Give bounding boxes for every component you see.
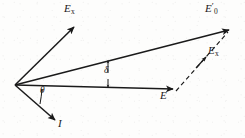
label-e0-prime-subscript: 0: [214, 7, 218, 16]
label-e0-prime: E′0: [205, 2, 218, 15]
label-ex-right-symbol: E: [208, 44, 215, 56]
label-ex-top: Ex: [64, 3, 75, 16]
vector-i-line: [15, 85, 55, 120]
vector-ex-top-line: [15, 27, 74, 85]
vector-e0-prime-line: [15, 30, 229, 85]
label-e-horizontal-symbol: E: [160, 89, 167, 101]
figure-root: Ex E′0 Ex E I δ θ: [0, 0, 245, 138]
label-ex-right: Ex: [208, 45, 219, 58]
label-ex-top-symbol: E: [64, 2, 71, 14]
label-ex-right-subscript: x: [215, 49, 219, 58]
vector-e-horizontal-line: [15, 85, 173, 89]
label-current-i-symbol: I: [58, 117, 62, 129]
label-current-i: I: [58, 118, 62, 129]
label-delta-angle: δ: [104, 66, 108, 76]
label-ex-top-subscript: x: [71, 7, 75, 16]
label-theta-angle: θ: [40, 86, 45, 96]
vector-diagram-canvas: [0, 0, 245, 138]
vector-ex-dashed-midarrow: [196, 57, 206, 68]
label-e-horizontal: E: [160, 90, 167, 101]
label-e0-prime-symbol: E: [205, 2, 212, 14]
